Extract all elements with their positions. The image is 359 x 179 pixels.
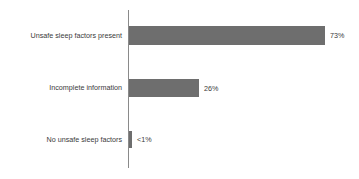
bar-value-label: 26% bbox=[204, 84, 218, 93]
bar-fill[interactable] bbox=[129, 26, 325, 45]
bar-value-label: 73% bbox=[330, 31, 344, 40]
bar-container: 73% bbox=[129, 26, 344, 45]
bar-value-label: <1% bbox=[137, 135, 152, 144]
bar-category-label: Unsafe sleep factors present bbox=[2, 31, 122, 40]
bar-chart: Unsafe sleep factors present 73% Incompl… bbox=[0, 0, 359, 179]
bar-fill[interactable] bbox=[129, 131, 132, 148]
bar-container: <1% bbox=[129, 131, 152, 148]
chart-bar-row: Unsafe sleep factors present 73% bbox=[0, 26, 359, 45]
bar-container: 26% bbox=[129, 79, 218, 97]
bar-category-label: No unsafe sleep factors bbox=[2, 135, 122, 144]
bar-fill[interactable] bbox=[129, 79, 199, 97]
bar-category-label: Incomplete information bbox=[2, 83, 122, 92]
chart-bar-row: No unsafe sleep factors <1% bbox=[0, 131, 359, 148]
chart-bar-row: Incomplete information 26% bbox=[0, 79, 359, 97]
